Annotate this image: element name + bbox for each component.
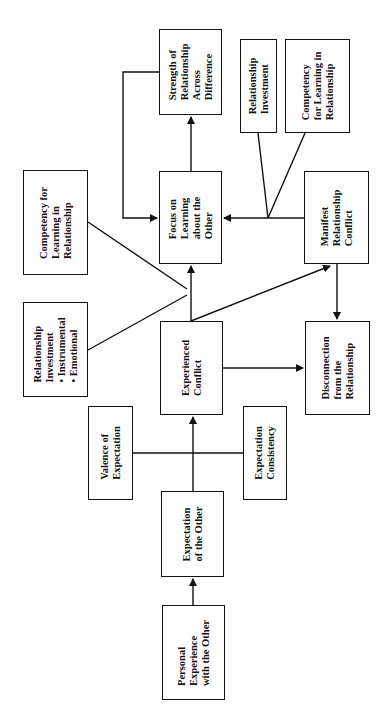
node-label: Manifest Relationship Conflict bbox=[319, 189, 355, 246]
node-label: Personal Experience with the Other bbox=[176, 620, 212, 686]
node-label: Disconnection from the Relationship bbox=[320, 337, 356, 400]
node-label: Relationship Investment bbox=[247, 58, 271, 115]
node-label: Strength of Relationship Across Differen… bbox=[167, 44, 215, 101]
node-label: Expectation of the Other bbox=[181, 507, 205, 562]
node-competency-left: Competency for Learning in Relationship bbox=[23, 170, 88, 275]
node-manifest-conflict: Manifest Relationship Conflict bbox=[304, 171, 369, 264]
node-label: Experienced Conflict bbox=[180, 340, 204, 396]
node-label: Expectation Consistency bbox=[253, 426, 277, 480]
node-label: Competency for Learning in Relationship bbox=[38, 186, 74, 258]
node-valence-of-expectation: Valence of Expectation bbox=[88, 406, 133, 500]
bullet-item: Emotional bbox=[68, 317, 80, 382]
node-relationship-investment-right: Relationship Investment bbox=[240, 39, 277, 133]
node-label: Focus on Learning about the Other bbox=[167, 196, 215, 238]
node-competency-right: Competency for Learning in Relationship bbox=[285, 39, 350, 133]
node-label: Competency for Learning in Relationship bbox=[300, 52, 336, 121]
node-label: Valence of Expectation bbox=[99, 426, 123, 480]
node-label: Relationship Investment Instrumental Emo… bbox=[32, 317, 80, 382]
node-relationship-investment-left: Relationship Investment Instrumental Emo… bbox=[23, 302, 88, 397]
bullet-item: Instrumental bbox=[56, 317, 68, 382]
node-disconnection: Disconnection from the Relationship bbox=[305, 321, 370, 415]
node-expectation-consistency: Expectation Consistency bbox=[243, 406, 287, 500]
node-focus-on-learning: Focus on Learning about the Other bbox=[159, 171, 222, 264]
node-expectation-of-other: Expectation of the Other bbox=[161, 491, 224, 577]
node-experienced-conflict: Experienced Conflict bbox=[160, 321, 223, 415]
node-personal-experience: Personal Experience with the Other bbox=[162, 605, 225, 700]
node-strength-of-relationship: Strength of Relationship Across Differen… bbox=[159, 29, 222, 115]
